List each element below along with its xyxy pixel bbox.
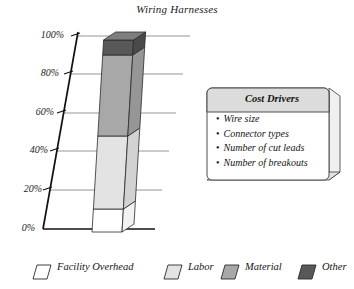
chart-legend: Facility Overhead Labor Material Other: [0, 258, 354, 284]
legend-label: Facility Overhead: [57, 261, 134, 272]
chart-canvas: Wiring Harnesses: [0, 0, 354, 289]
legend-label: Labor: [188, 261, 214, 272]
legend-label: Material: [245, 261, 282, 272]
legend-label: Other: [322, 261, 347, 272]
legend-swatch-graphics: [0, 0, 354, 289]
